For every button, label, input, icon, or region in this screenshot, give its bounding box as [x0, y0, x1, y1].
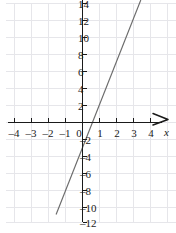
y-tick-label-2: 2	[78, 101, 84, 112]
coordinate-plane-figure: 14 12 10 8 6 4 2 –2 –4 –6 –8 –10 –12 –4 …	[0, 0, 176, 233]
x-tick-label-3: 3	[131, 128, 137, 139]
y-tick-label-neg4: –4	[80, 152, 91, 163]
x-tick-label-neg1: –1	[60, 128, 71, 139]
x-tick-label-neg4: –4	[9, 128, 20, 139]
data-line-series	[56, 0, 141, 215]
x-tick-label-neg3: –3	[26, 128, 37, 139]
grid-lines	[6, 3, 176, 223]
y-tick-label-8: 8	[78, 50, 84, 61]
y-tick-label-14: 14	[78, 0, 89, 10]
y-tick-label-neg6: –6	[80, 169, 91, 180]
x-tick-label-1: 1	[97, 128, 103, 139]
y-tick-label-10: 10	[78, 33, 89, 44]
y-tick-label-12: 12	[78, 16, 89, 27]
x-tick-label-neg2: –2	[43, 128, 54, 139]
x-tick-label-2: 2	[114, 128, 120, 139]
y-tick-label-neg8: –8	[80, 186, 91, 197]
x-axis-label: x	[164, 127, 169, 138]
y-tick-label-6: 6	[78, 67, 84, 78]
x-tick-label-0: 0	[76, 128, 82, 139]
y-tick-label-4: 4	[78, 84, 84, 95]
y-tick-label-neg12: –12	[80, 218, 97, 229]
y-tick-label-neg10: –10	[80, 203, 97, 214]
x-tick-label-4: 4	[148, 128, 154, 139]
